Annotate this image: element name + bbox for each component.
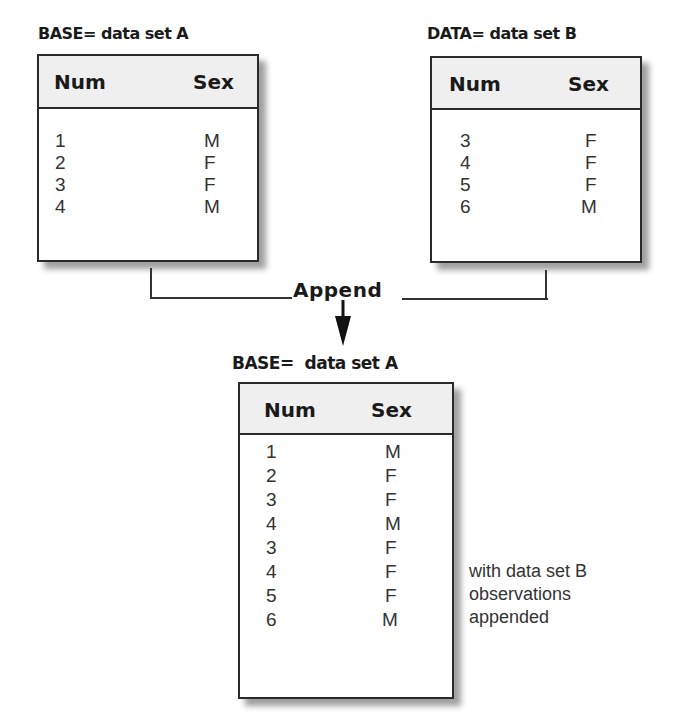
num-cell: 3 [266, 489, 277, 511]
table-row: 1 M [240, 441, 452, 463]
table-row: 3 F [240, 489, 452, 511]
num-cell: 4 [266, 513, 277, 535]
data-dataset-label: DATA= data set B [427, 24, 577, 43]
sex-cell: M [385, 441, 401, 463]
note-line: observations [469, 583, 587, 606]
table-row: 4 F [432, 152, 640, 174]
sex-cell: F [204, 174, 216, 196]
table-row: 5 F [432, 174, 640, 196]
sex-cell: M [204, 130, 220, 152]
num-cell: 2 [266, 465, 277, 487]
table-row: 3 F [432, 130, 640, 152]
arrow-down-icon [333, 300, 353, 350]
num-cell: 3 [55, 174, 66, 196]
num-cell: 4 [266, 561, 277, 583]
column-header-num: Num [449, 72, 501, 96]
sex-cell: F [585, 152, 597, 174]
sex-cell: F [204, 152, 216, 174]
table-row: 2 F [39, 152, 257, 174]
sex-cell: F [585, 174, 597, 196]
sex-cell: M [385, 513, 401, 535]
sex-cell: F [385, 465, 397, 487]
appended-note: with data set B observations appended [469, 560, 587, 629]
base-dataset-label: BASE= data set A [38, 24, 188, 43]
table-row: 5 F [240, 585, 452, 607]
table-header: Num Sex [240, 384, 452, 435]
num-cell: 3 [460, 130, 471, 152]
sex-cell: M [581, 196, 597, 218]
connector-right-vertical [545, 270, 547, 300]
table-row: 4 M [39, 196, 257, 218]
sex-cell: M [204, 196, 220, 218]
num-cell: 1 [55, 130, 66, 152]
base-dataset-table: Num Sex 1 M 2 F 3 F 4 M [37, 54, 259, 262]
num-cell: 6 [266, 609, 277, 631]
connector-right-horizontal [402, 298, 548, 300]
column-header-num: Num [54, 70, 106, 94]
num-cell: 3 [266, 537, 277, 559]
result-dataset-table: Num Sex 1 M 2 F 3 F 4 M 3 F 4 F 5 F [238, 382, 454, 699]
append-operation-label: Append [293, 278, 382, 302]
sex-cell: F [385, 489, 397, 511]
column-header-sex: Sex [371, 398, 412, 422]
num-cell: 5 [266, 585, 277, 607]
table-row: 3 F [240, 537, 452, 559]
table-row: 3 F [39, 174, 257, 196]
connector-left-horizontal [150, 297, 292, 299]
table-row: 6 M [432, 196, 640, 218]
result-dataset-label: BASE= data set A [232, 353, 398, 373]
note-line: with data set B [469, 560, 587, 583]
table-header: Num Sex [432, 58, 640, 110]
table-header: Num Sex [39, 56, 257, 109]
data-dataset-table: Num Sex 3 F 4 F 5 F 6 M [430, 56, 642, 263]
sex-cell: M [382, 609, 398, 631]
table-row: 2 F [240, 465, 452, 487]
table-row: 1 M [39, 130, 257, 152]
sex-cell: F [385, 561, 397, 583]
num-cell: 4 [460, 152, 471, 174]
note-line: appended [469, 606, 587, 629]
num-cell: 6 [460, 196, 471, 218]
sex-cell: F [385, 585, 397, 607]
table-row: 4 M [240, 513, 452, 535]
table-row: 6 M [240, 609, 452, 631]
column-header-sex: Sex [568, 72, 609, 96]
sex-cell: F [385, 537, 397, 559]
table-row: 4 F [240, 561, 452, 583]
num-cell: 2 [55, 152, 66, 174]
connector-left-vertical [150, 268, 152, 299]
num-cell: 1 [266, 441, 277, 463]
sex-cell: F [585, 130, 597, 152]
num-cell: 4 [55, 196, 66, 218]
column-header-sex: Sex [193, 70, 234, 94]
num-cell: 5 [460, 174, 471, 196]
column-header-num: Num [264, 398, 316, 422]
